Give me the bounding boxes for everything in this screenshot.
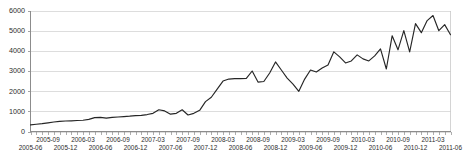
y-axis-tick-label: 2000	[9, 87, 25, 96]
x-axis-tick-label: 2006-12	[124, 144, 148, 151]
x-axis-tick-label: 2008-03	[211, 136, 235, 143]
x-axis-tick-label: 2007-12	[194, 144, 218, 151]
x-axis-tick-label: 2010-03	[351, 136, 375, 143]
x-axis-tick-label: 2009-12	[334, 144, 358, 151]
y-axis-labels: 0100020003000400050006000	[9, 6, 25, 136]
y-axis-tick-label: 6000	[9, 6, 25, 15]
x-axis-tick-label: 2008-12	[264, 144, 288, 151]
chart-canvas: 0100020003000400050006000 2005-062005-09…	[0, 0, 463, 163]
x-axis-tick-label: 2009-03	[281, 136, 305, 143]
x-axis-labels: 2005-062005-092005-122006-032006-062006-…	[19, 136, 463, 151]
x-axis-tick-label: 2007-06	[159, 144, 183, 151]
x-axis-tick-label: 2010-12	[404, 144, 428, 151]
x-axis-tick-label: 2005-06	[19, 144, 43, 151]
x-axis-tick-label: 2006-09	[106, 136, 130, 143]
x-axis-tick-label: 2005-12	[54, 144, 78, 151]
data-series-line	[31, 16, 451, 125]
y-axis-tick-label: 1000	[9, 107, 25, 116]
y-axis-tick-label: 4000	[9, 46, 25, 55]
y-axis-tick-label: 3000	[9, 66, 25, 75]
x-axis-tick-label: 2009-09	[316, 136, 340, 143]
x-axis-tick-label: 2011-06	[439, 144, 462, 151]
gridlines	[31, 12, 451, 133]
y-axis-tick-label: 0	[21, 127, 25, 136]
x-axis-tick-label: 2006-03	[71, 136, 95, 143]
x-axis-tick-label: 2011-03	[422, 136, 445, 143]
x-axis-tick-label: 2008-06	[229, 144, 253, 151]
x-axis-tick-label: 2007-09	[176, 136, 200, 143]
line-chart: 0100020003000400050006000 2005-062005-09…	[0, 0, 463, 163]
x-axis-tick-label: 2006-06	[89, 144, 113, 151]
x-axis-tick-label: 2010-06	[369, 144, 393, 151]
x-axis-tick-label: 2009-06	[299, 144, 323, 151]
y-axis-tick-label: 5000	[9, 26, 25, 35]
plot-frame	[31, 11, 451, 132]
x-axis-tick-label: 2007-03	[141, 136, 165, 143]
x-axis-tick-label: 2005-09	[36, 136, 60, 143]
x-axis-tick-label: 2008-09	[246, 136, 270, 143]
x-axis-tick-label: 2010-09	[386, 136, 410, 143]
